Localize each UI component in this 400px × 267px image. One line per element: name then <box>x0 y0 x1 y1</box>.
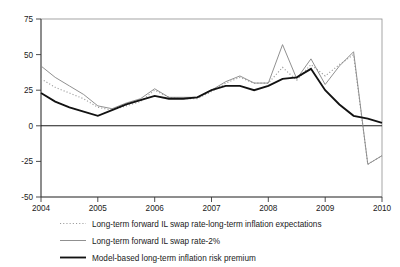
x-tick-label: 2008 <box>259 204 278 213</box>
legend-label: Long-term forward IL swap rate-long-term… <box>92 220 322 229</box>
legend-label: Long-term forward IL swap rate-2% <box>92 237 220 246</box>
y-tick-marks <box>36 19 41 197</box>
plot-frame <box>41 19 382 197</box>
y-tick-label: -25 <box>21 157 33 166</box>
x-tick-marks <box>41 197 382 202</box>
x-tick-label: 2009 <box>316 204 335 213</box>
x-tick-label: 2004 <box>32 204 51 213</box>
y-tick-label: 25 <box>24 86 34 95</box>
x-tick-label: 2010 <box>373 204 392 213</box>
chart-legend: Long-term forward IL swap rate-long-term… <box>60 220 322 263</box>
y-tick-label: 75 <box>24 15 34 24</box>
x-tick-labels: 2004 2005 2006 2007 2008 2009 2010 <box>32 204 392 213</box>
line-chart-canvas: 75 50 25 0 -25 -50 2004 2005 2006 2007 2… <box>0 0 400 267</box>
legend-label: Model-based long-term inflation risk pre… <box>92 254 256 263</box>
series-line-forward-swap-minus-2pct <box>41 45 382 165</box>
y-tick-label: 50 <box>24 51 34 60</box>
x-tick-label: 2005 <box>89 204 108 213</box>
legend-entry-2: Model-based long-term inflation risk pre… <box>60 254 256 263</box>
legend-entry-0: Long-term forward IL swap rate-long-term… <box>60 220 322 229</box>
x-tick-label: 2006 <box>146 204 165 213</box>
legend-entry-1: Long-term forward IL swap rate-2% <box>60 237 220 246</box>
inflation-risk-premium-figure: 75 50 25 0 -25 -50 2004 2005 2006 2007 2… <box>0 0 400 267</box>
y-tick-label: -50 <box>21 193 33 202</box>
series-line-forward-swap-minus-expectations <box>41 55 382 165</box>
x-tick-label: 2007 <box>202 204 221 213</box>
y-tick-labels: 75 50 25 0 -25 -50 <box>21 15 33 202</box>
y-tick-label: 0 <box>28 122 33 131</box>
